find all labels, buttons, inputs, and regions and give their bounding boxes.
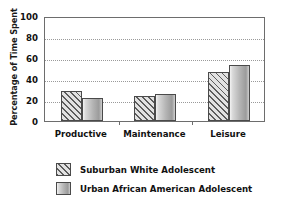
bar-leisure-urban-african-american xyxy=(229,65,250,121)
y-tick-label-20: 20 xyxy=(16,97,38,106)
y-tick-label-100: 100 xyxy=(16,13,38,22)
bar-group-leisure xyxy=(192,18,266,121)
legend-swatch-solid xyxy=(56,182,71,195)
plot-area xyxy=(44,17,265,122)
bar-group-maintenance xyxy=(119,18,193,121)
x-tick-label-productive: Productive xyxy=(44,129,118,139)
legend-item-suburban-white: Suburban White Adolescent xyxy=(56,160,252,179)
bar-maintenance-urban-african-american xyxy=(155,94,176,121)
legend-item-urban-african-american: Urban African American Adolescent xyxy=(56,179,252,198)
y-tick-label-60: 60 xyxy=(16,55,38,64)
bar-chart: Percentage of Time Spent 100 80 60 40 20… xyxy=(0,0,282,207)
chart-legend: Suburban White Adolescent Urban African … xyxy=(56,160,252,198)
x-tick-label-maintenance: Maintenance xyxy=(118,129,192,139)
axis-separator-2 xyxy=(192,121,193,125)
bar-productive-urban-african-american xyxy=(82,98,103,121)
x-tick-label-leisure: Leisure xyxy=(191,129,265,139)
legend-label-suburban-white: Suburban White Adolescent xyxy=(80,165,215,175)
axis-separator-1 xyxy=(119,121,120,125)
y-axis-title: Percentage of Time Spent xyxy=(9,7,19,127)
y-tick-label-0: 0 xyxy=(16,118,38,127)
bar-maintenance-suburban-white xyxy=(134,96,155,121)
bar-group-productive xyxy=(45,18,119,121)
legend-label-urban-african-american: Urban African American Adolescent xyxy=(80,184,252,194)
bar-leisure-suburban-white xyxy=(208,72,229,121)
y-tick-label-40: 40 xyxy=(16,76,38,85)
bar-productive-suburban-white xyxy=(61,91,82,122)
legend-swatch-hatched xyxy=(56,163,71,176)
y-tick-label-80: 80 xyxy=(16,34,38,43)
